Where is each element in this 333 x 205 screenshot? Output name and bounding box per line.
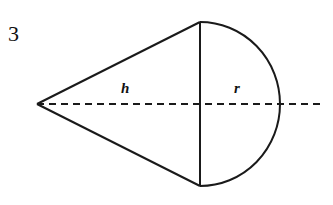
- diagram-canvas: 3 h r: [0, 0, 333, 205]
- cone-hemisphere-figure: [0, 0, 333, 205]
- height-label: h: [121, 80, 129, 97]
- cone-upper-slant: [37, 22, 200, 104]
- radius-label: r: [234, 80, 240, 97]
- cone-lower-slant: [37, 104, 200, 186]
- problem-number: 3: [8, 21, 19, 47]
